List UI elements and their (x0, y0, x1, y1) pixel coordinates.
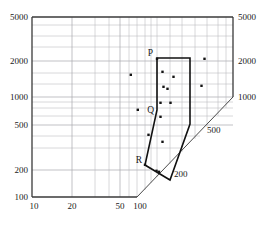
data-point (166, 88, 168, 90)
data-point (172, 76, 174, 78)
data-point (130, 74, 132, 76)
gridlines-group (32, 17, 233, 197)
tick-left-1000: 1000 (10, 92, 29, 102)
tick-left-200: 200 (15, 165, 29, 175)
region-polygon (145, 58, 190, 180)
tick-left-100: 100 (15, 192, 29, 202)
tick-bottom-20: 20 (68, 201, 78, 211)
axis-tick-labels-bottom: 10 20 50 100 (30, 201, 148, 211)
chart-screenshot: 5000 2000 1000 500 200 100 10 20 50 100 … (0, 0, 275, 229)
axis-tick-labels-left: 5000 2000 1000 500 200 100 (10, 12, 29, 202)
data-point (162, 86, 164, 88)
data-point (147, 134, 149, 136)
data-point (203, 58, 205, 60)
data-point (159, 116, 161, 118)
tick-right-1000: 1000 (238, 92, 257, 102)
data-point (137, 109, 139, 111)
data-point (155, 170, 157, 172)
axis-tick-labels-right: 5000 2000 1000 (238, 12, 257, 102)
tick-bottom-100: 100 (133, 201, 147, 211)
scatter-plot-figure: 5000 2000 1000 500 200 100 10 20 50 100 … (0, 0, 275, 229)
data-point (158, 171, 160, 173)
data-point (161, 141, 163, 143)
vertex-label-q: Q (147, 105, 154, 115)
data-point (144, 164, 146, 166)
vertex-label-p: P (148, 48, 153, 58)
tick-left-500: 500 (15, 120, 29, 130)
tick-left-5000: 5000 (10, 12, 29, 22)
vertex-label-r: R (136, 155, 143, 165)
data-point (169, 102, 171, 104)
data-point (200, 85, 202, 87)
data-point (159, 102, 161, 104)
tick-right-2000: 2000 (238, 56, 257, 66)
tick-bottom-50: 50 (116, 201, 126, 211)
tick-diagonal-500: 500 (207, 125, 221, 135)
tick-bottom-10: 10 (30, 201, 40, 211)
tick-left-2000: 2000 (10, 56, 29, 66)
tick-diagonal-200: 200 (174, 169, 188, 179)
data-point (161, 71, 163, 73)
tick-right-5000: 5000 (238, 12, 257, 22)
data-point (156, 58, 158, 60)
axis-tick-labels-diagonal: 500 200 (174, 125, 221, 179)
